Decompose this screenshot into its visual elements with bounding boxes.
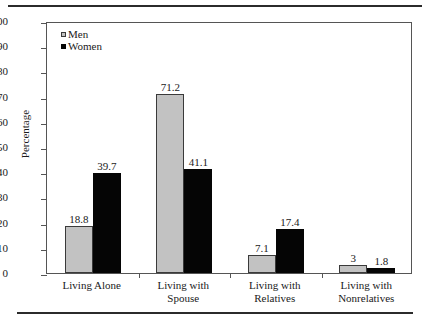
x-axis-category-label: Living withRelatives xyxy=(229,279,321,305)
y-axis-tick-label: 50 xyxy=(0,142,8,153)
y-axis-tick xyxy=(41,250,47,251)
y-axis-tick-label: 30 xyxy=(0,192,8,203)
y-axis-tick-label: 40 xyxy=(0,167,8,178)
y-axis-tick-label: 10 xyxy=(0,243,8,254)
legend-swatch-women-icon xyxy=(61,44,66,49)
legend-swatch-men-icon xyxy=(61,32,66,37)
y-axis-tick-label: 100 xyxy=(0,16,8,27)
y-axis-tick-label: 20 xyxy=(0,218,8,229)
bar-women-4 xyxy=(367,268,395,273)
y-axis-tick xyxy=(41,199,47,200)
y-axis-tick-label: 60 xyxy=(0,117,8,128)
y-axis-tick xyxy=(41,275,47,276)
y-axis-tick xyxy=(41,149,47,150)
y-axis-tick-label: 80 xyxy=(0,66,8,77)
y-axis-tick xyxy=(41,99,47,100)
y-axis-tick xyxy=(41,124,47,125)
x-axis-category-label: Living withNonrelatives xyxy=(321,279,413,305)
x-axis-category-line: Living Alone xyxy=(46,279,138,292)
bar-women-3 xyxy=(276,229,304,273)
top-rule xyxy=(8,5,422,7)
bar-men-1 xyxy=(65,226,93,273)
x-axis-tick xyxy=(322,273,323,278)
plot-area: 18.839.771.241.17.117.431.8 Men Women xyxy=(46,22,412,274)
y-axis-tick-label: 90 xyxy=(0,41,8,52)
legend-item-women: Women xyxy=(61,41,102,53)
bar-women-2 xyxy=(184,169,212,273)
y-axis-tick xyxy=(41,225,47,226)
x-axis-category-line: Living with xyxy=(138,279,230,292)
x-axis-tick xyxy=(230,273,231,278)
bottom-rule xyxy=(17,312,413,314)
y-axis-tick xyxy=(41,48,47,49)
x-axis-category-line: Nonrelatives xyxy=(321,292,413,305)
x-axis-tick xyxy=(139,273,140,278)
x-axis-category-line: Living with xyxy=(321,279,413,292)
bar-chart-figure: Percentage 0102030405060708090100 18.839… xyxy=(0,0,430,324)
bar-women-1 xyxy=(93,173,121,273)
x-axis-category-line: Living with xyxy=(229,279,321,292)
x-axis-category-label: Living withSpouse xyxy=(138,279,230,305)
x-axis-category-line: Relatives xyxy=(229,292,321,305)
bar-value-label: 1.8 xyxy=(359,256,403,267)
bar-value-label: 41.1 xyxy=(176,157,220,168)
chart-legend: Men Women xyxy=(61,29,102,52)
y-axis-tick xyxy=(41,73,47,74)
y-axis-tick-label: 70 xyxy=(0,92,8,103)
y-axis-title: Percentage xyxy=(19,79,31,189)
bar-value-label: 71.2 xyxy=(148,82,192,93)
legend-label-men: Men xyxy=(68,29,88,41)
x-axis-category-line: Spouse xyxy=(138,292,230,305)
x-axis-category-label: Living Alone xyxy=(46,279,138,292)
bar-value-label: 17.4 xyxy=(268,217,312,228)
bar-men-2 xyxy=(156,94,184,273)
y-axis-tick-label: 0 xyxy=(0,268,8,279)
legend-label-women: Women xyxy=(68,41,102,53)
legend-item-men: Men xyxy=(61,29,102,41)
bar-value-label: 39.7 xyxy=(85,161,129,172)
y-axis-tick xyxy=(41,174,47,175)
bar-men-3 xyxy=(248,255,276,273)
y-axis-tick xyxy=(41,23,47,24)
